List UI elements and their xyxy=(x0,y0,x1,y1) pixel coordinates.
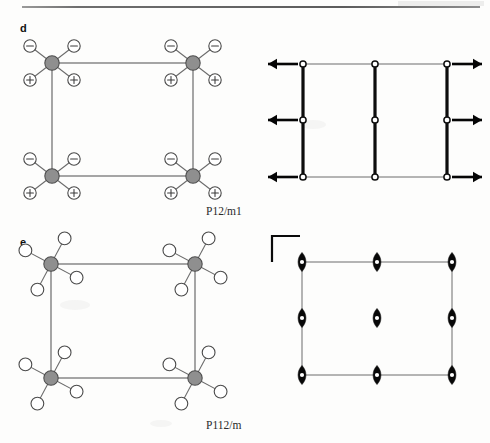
symmetry-arrow-left-head xyxy=(268,59,277,69)
inversion-center-dot xyxy=(450,316,454,320)
structure-diagram-d xyxy=(0,0,250,230)
ligand-circle xyxy=(214,385,227,398)
metal-atom xyxy=(188,371,202,385)
ligand-circle xyxy=(202,346,215,359)
inversion-center-dot xyxy=(375,260,379,264)
metal-atom xyxy=(45,169,59,183)
space-group-caption-e: P112/m xyxy=(206,419,241,431)
ligand-circle xyxy=(163,358,176,371)
ligand-circle xyxy=(175,283,188,296)
metal-atom xyxy=(44,257,58,271)
metal-atom xyxy=(188,257,202,271)
metal-atom xyxy=(186,56,200,70)
inversion-center-symbol xyxy=(444,61,450,67)
inversion-center-symbol xyxy=(444,117,450,123)
inversion-center-symbol xyxy=(300,61,306,67)
symmetry-arrow-left-head xyxy=(268,172,277,182)
symmetry-arrow-right-head xyxy=(473,59,482,69)
inversion-center-dot xyxy=(300,316,304,320)
ligand-circle xyxy=(31,283,44,296)
structure-diagram-e xyxy=(0,215,250,443)
ligand-circle xyxy=(70,271,83,284)
symmetry-arrow-right-head xyxy=(473,115,482,125)
ligand-circle xyxy=(31,397,44,410)
metal-atom xyxy=(44,371,58,385)
inversion-center-symbol xyxy=(372,174,378,180)
symmetry-arrow-right-head xyxy=(473,172,482,182)
inversion-center-symbol xyxy=(372,61,378,67)
symmetry-diagram-e xyxy=(245,215,490,443)
ligand-circle xyxy=(58,346,71,359)
inversion-center-dot xyxy=(300,373,304,377)
metal-atom xyxy=(45,56,59,70)
ligand-circle xyxy=(70,385,83,398)
inversion-center-dot xyxy=(375,373,379,377)
inversion-center-dot xyxy=(300,260,304,264)
ligand-circle xyxy=(19,244,32,257)
inversion-center-dot xyxy=(375,316,379,320)
inversion-center-dot xyxy=(450,373,454,377)
inversion-center-dot xyxy=(450,260,454,264)
metal-atom xyxy=(186,169,200,183)
inversion-center-symbol xyxy=(444,174,450,180)
axes-corner-marker xyxy=(272,236,300,262)
figure-root: d P12/m1 e P112/m xyxy=(0,0,490,443)
inversion-center-symbol xyxy=(300,117,306,123)
inversion-center-symbol xyxy=(300,174,306,180)
inversion-center-symbol xyxy=(372,117,378,123)
ligand-circle xyxy=(58,232,71,245)
ligand-circle xyxy=(175,397,188,410)
symmetry-arrow-left-head xyxy=(268,115,277,125)
ligand-circle xyxy=(19,358,32,371)
ligand-circle xyxy=(214,271,227,284)
symmetry-diagram-d xyxy=(245,0,490,230)
ligand-circle xyxy=(202,232,215,245)
ligand-circle xyxy=(163,244,176,257)
